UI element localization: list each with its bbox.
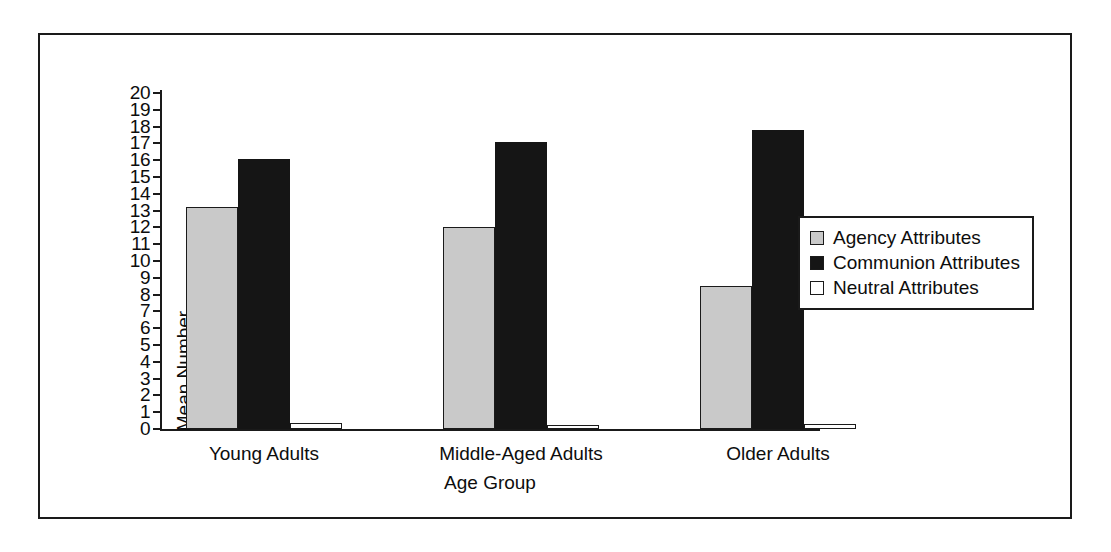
legend-item: Neutral Attributes (810, 275, 1020, 300)
legend-swatch-communion-icon (810, 256, 824, 270)
figure-page: 20191817161514131211109876543210 Mean Nu… (0, 0, 1111, 552)
legend-swatch-agency-icon (810, 231, 824, 245)
legend-label-communion: Communion Attributes (833, 252, 1020, 274)
legend-label-agency: Agency Attributes (833, 227, 981, 249)
legend-swatch-neutral-icon (810, 281, 824, 295)
legend-item: Agency Attributes (810, 225, 1020, 250)
legend: Agency Attributes Communion Attributes N… (798, 216, 1034, 310)
legend-item: Communion Attributes (810, 250, 1020, 275)
legend-label-neutral: Neutral Attributes (833, 277, 979, 299)
